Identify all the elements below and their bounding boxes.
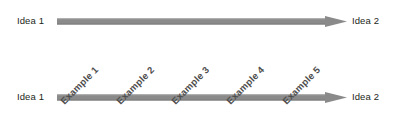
- idea-1-label-bottom: Idea 1: [17, 89, 44, 105]
- arrow-shape-top: [57, 16, 347, 27]
- idea-2-label-top: Idea 2: [352, 13, 379, 29]
- diagram-canvas: Idea 1 Idea 2 Idea 1: [0, 0, 395, 133]
- arrow-top: [57, 16, 347, 27]
- arrow-shape-bottom: [57, 92, 347, 103]
- arrow-bottom: [57, 92, 347, 103]
- idea-1-label-top: Idea 1: [17, 13, 44, 29]
- idea-2-label-bottom: Idea 2: [352, 89, 379, 105]
